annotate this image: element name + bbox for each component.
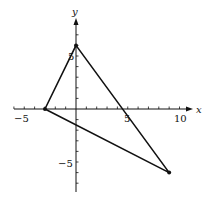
x-axis-arrow-icon	[186, 107, 193, 112]
y-tick-label-neg5: −5	[58, 158, 73, 169]
x-axis-label: x	[196, 104, 202, 115]
vertex-point	[167, 171, 171, 175]
y-axis-arrow-icon	[74, 18, 79, 25]
vertex-point	[74, 43, 78, 47]
x-tick-label-10: 10	[174, 113, 187, 124]
y-axis-label: y	[71, 6, 78, 17]
coordinate-plot: x y −5 5 10 5 −5	[0, 0, 210, 201]
vertex-point	[43, 107, 47, 111]
x-axis	[14, 107, 193, 112]
x-tick-label-neg5: −5	[14, 113, 29, 124]
